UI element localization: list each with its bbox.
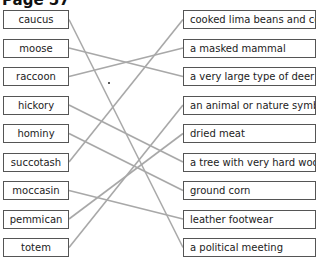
definition-box-nature-symbol[interactable]: an animal or nature symbol [183,96,316,115]
term-box-hickory[interactable]: hickory [3,96,69,115]
definition-box-masked-mammal[interactable]: a masked mammal [183,39,316,58]
definition-box-leather-footwear[interactable]: leather footwear [183,210,316,229]
match-line-hickory [69,105,183,162]
definition-box-lima-beans[interactable]: cooked lima beans and corn [183,10,316,29]
term-box-raccoon[interactable]: raccoon [3,67,69,86]
definition-box-large-deer[interactable]: a very large type of deer [183,67,316,86]
definition-box-ground-corn[interactable]: ground corn [183,181,316,200]
match-line-moccasin [69,191,183,220]
definition-box-political-meeting[interactable]: a political meeting [183,238,316,257]
definition-box-hard-wood-tree[interactable]: a tree with very hard wood [183,153,316,172]
definition-box-dried-meat[interactable]: dried meat [183,124,316,143]
term-box-hominy[interactable]: hominy [3,124,69,143]
stray-dot [108,82,110,84]
term-box-moccasin[interactable]: moccasin [3,181,69,200]
term-box-caucus[interactable]: caucus [3,10,69,29]
term-box-totem[interactable]: totem [3,238,69,257]
term-box-succotash[interactable]: succotash [3,153,69,172]
term-box-moose[interactable]: moose [3,39,69,58]
term-box-pemmican[interactable]: pemmican [3,210,69,229]
match-line-totem [69,105,183,248]
match-line-hominy [69,134,183,191]
match-line-succotash [69,20,183,163]
